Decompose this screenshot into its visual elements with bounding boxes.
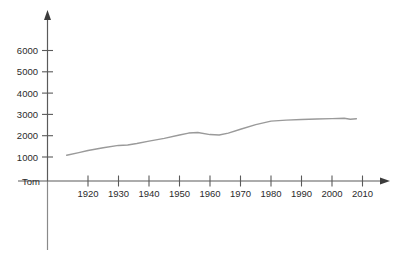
x-tick-group: 1920 1930 1940 1950 1960 1970 1980 1990 …: [77, 176, 373, 200]
x-tick-label: 2000: [321, 188, 342, 199]
x-tick-label: 1980: [260, 188, 281, 199]
y-tick-label: 6000: [17, 45, 38, 56]
x-tick-label: 1920: [77, 188, 98, 199]
origin-axis-label: Tom: [22, 176, 40, 187]
data-series-line: [67, 118, 357, 155]
x-tick-label: 1930: [108, 188, 129, 199]
chart-canvas: 6000 5000 4000 3000 2000 1000 Tom 1920 1…: [0, 0, 400, 263]
x-axis-arrow-icon: [380, 178, 390, 185]
x-tick-label: 1960: [199, 188, 220, 199]
y-tick-label: 2000: [17, 130, 38, 141]
y-tick-label: 4000: [17, 88, 38, 99]
x-tick-label: 1940: [138, 188, 159, 199]
y-tick-label: 1000: [17, 152, 38, 163]
line-chart: 6000 5000 4000 3000 2000 1000 Tom 1920 1…: [0, 0, 400, 263]
y-tick-label: 3000: [17, 109, 38, 120]
x-tick-label: 2010: [352, 188, 373, 199]
x-tick-label: 1970: [230, 188, 251, 199]
x-tick-label: 1950: [169, 188, 190, 199]
x-tick-label: 1990: [291, 188, 312, 199]
y-axis-arrow-icon: [44, 10, 51, 20]
y-tick-label: 5000: [17, 66, 38, 77]
